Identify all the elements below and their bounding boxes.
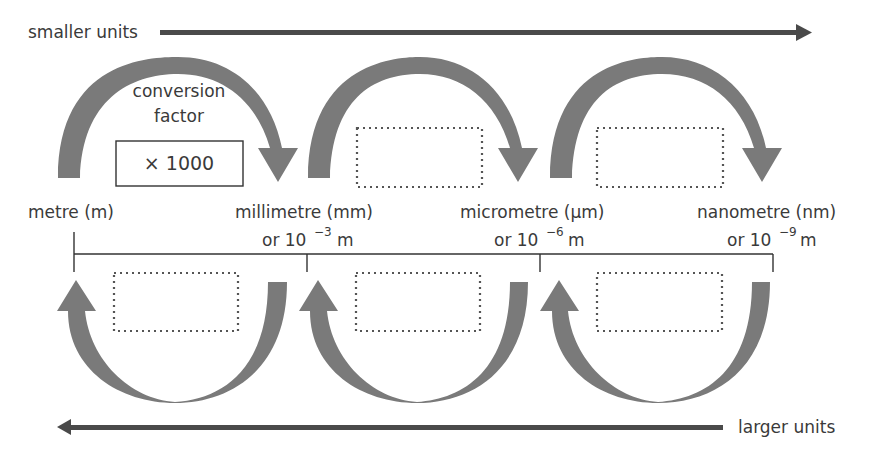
curved-arrow-up-icon bbox=[57, 280, 287, 403]
conversion-factor-value: × 1000 bbox=[144, 152, 214, 174]
blank-answer-box-bottom-2[interactable] bbox=[356, 273, 480, 331]
scale-line bbox=[74, 232, 773, 272]
blank-answer-box-bottom-1[interactable] bbox=[114, 273, 238, 331]
unit-power-suffix: m bbox=[337, 230, 354, 250]
smaller-units-arrow: smaller units bbox=[28, 22, 812, 42]
bottom-arc-1 bbox=[57, 280, 287, 403]
unit-conversion-diagram: smaller units conversion factor × 1000 m… bbox=[0, 0, 870, 456]
larger-units-arrow: larger units bbox=[57, 417, 835, 437]
curved-arrow-up-icon bbox=[540, 280, 770, 403]
top-arc-3 bbox=[550, 57, 782, 182]
unit-power-exponent: −3 bbox=[314, 225, 332, 239]
smaller-units-label: smaller units bbox=[28, 22, 138, 42]
unit-name: metre (m) bbox=[28, 202, 114, 222]
curved-arrow-down-icon bbox=[550, 57, 782, 182]
bottom-arc-2 bbox=[299, 280, 528, 403]
blank-answer-box-top-1[interactable] bbox=[357, 128, 482, 187]
unit-name: millimetre (mm) bbox=[235, 202, 373, 222]
unit-power-prefix: or 10 bbox=[494, 230, 538, 250]
conversion-label-line1: conversion bbox=[133, 81, 226, 101]
unit-label-micrometre: micrometre (µm) or 10 −6 m bbox=[460, 202, 604, 250]
arrow-left-icon bbox=[57, 419, 71, 435]
unit-power-exponent: −9 bbox=[779, 225, 797, 239]
curved-arrow-up-icon bbox=[299, 280, 528, 403]
unit-power-prefix: or 10 bbox=[727, 230, 771, 250]
blank-answer-box-bottom-3[interactable] bbox=[597, 273, 722, 331]
unit-name: micrometre (µm) bbox=[460, 202, 604, 222]
unit-label-metre: metre (m) bbox=[28, 202, 114, 222]
unit-name: nanometre (nm) bbox=[697, 202, 836, 222]
unit-label-nanometre: nanometre (nm) or 10 −9 m bbox=[697, 202, 836, 250]
unit-power-suffix: m bbox=[800, 230, 817, 250]
larger-units-label: larger units bbox=[738, 417, 835, 437]
top-arc-2 bbox=[308, 57, 538, 182]
arrow-shaft bbox=[70, 425, 723, 430]
curved-arrow-down-icon bbox=[308, 57, 538, 182]
unit-power-suffix: m bbox=[568, 230, 585, 250]
bottom-arc-3 bbox=[540, 280, 770, 403]
blank-answer-box-top-2[interactable] bbox=[597, 128, 723, 187]
arrow-shaft bbox=[160, 30, 798, 35]
conversion-label-line2: factor bbox=[154, 106, 204, 126]
unit-label-millimetre: millimetre (mm) or 10 −3 m bbox=[235, 202, 373, 250]
arrow-right-icon bbox=[796, 24, 812, 41]
unit-power-prefix: or 10 bbox=[262, 230, 306, 250]
unit-power-exponent: −6 bbox=[546, 225, 564, 239]
